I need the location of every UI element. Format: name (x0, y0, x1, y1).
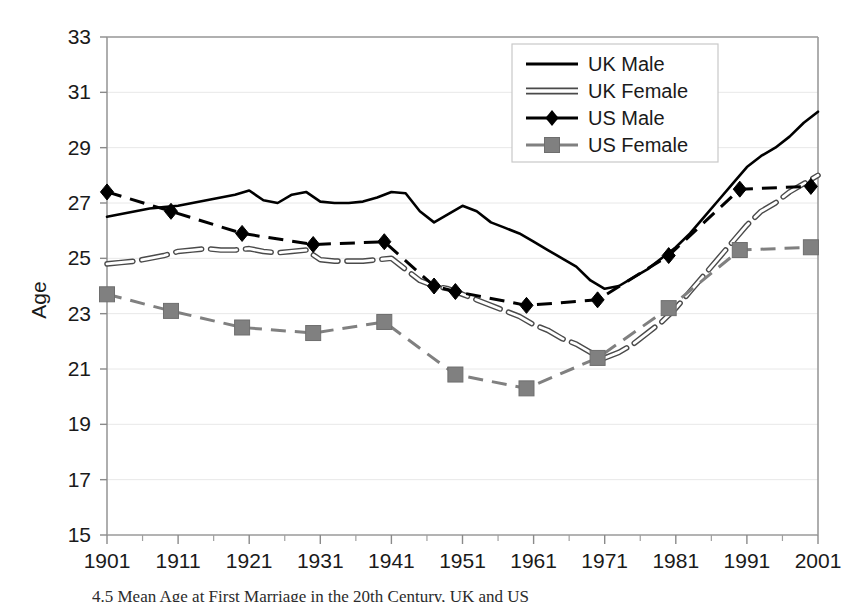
data-point-marker (448, 367, 463, 382)
legend-item-label: UK Female (588, 80, 688, 102)
y-axis-tick-label: 25 (68, 246, 91, 269)
x-axis-tick-label: 1961 (510, 549, 557, 572)
legend-swatch-marker (545, 138, 560, 153)
data-point-marker (590, 350, 605, 365)
y-axis-tick-label: 33 (68, 25, 91, 48)
x-axis-tick-label: 1921 (226, 549, 273, 572)
data-point-marker (377, 314, 392, 329)
legend-item-label: US Female (588, 134, 688, 156)
y-axis-tick-label: 23 (68, 302, 91, 325)
data-point-marker (163, 303, 178, 318)
legend-item-label: US Male (588, 107, 665, 129)
x-axis-tick-label: 1931 (297, 549, 344, 572)
x-axis-tick-label: 1901 (84, 549, 131, 572)
chart-background (0, 0, 855, 602)
x-axis-tick-label: 2001 (795, 549, 842, 572)
x-axis-tick-label: 1911 (156, 549, 201, 572)
legend-item-label: UK Male (588, 53, 665, 75)
y-axis-tick-label: 17 (68, 468, 91, 491)
y-axis-tick-label: 27 (68, 191, 91, 214)
data-point-marker (519, 381, 534, 396)
y-axis-tick-label: 31 (68, 80, 91, 103)
figure-caption: 4.5 Mean Age at First Marriage in the 20… (92, 586, 832, 602)
y-axis-tick-label: 29 (68, 136, 91, 159)
y-axis-tick-label: 19 (68, 412, 91, 435)
data-point-marker (100, 287, 115, 302)
y-axis-title: Age (27, 281, 50, 318)
data-point-marker (306, 326, 321, 341)
data-point-marker (803, 240, 818, 255)
data-point-marker (235, 320, 250, 335)
x-axis-tick-label: 1941 (368, 549, 415, 572)
x-axis-tick-labels: 1901191119211931194119511961197119811991… (84, 549, 842, 572)
x-axis-tick-label: 1991 (724, 549, 771, 572)
x-axis-tick-label: 1971 (581, 549, 628, 572)
mean-age-first-marriage-chart: 15171921232527293133 1901191119211931194… (0, 0, 855, 602)
x-axis-tick-label: 1981 (652, 549, 699, 572)
data-point-marker (732, 243, 747, 258)
data-point-marker (661, 301, 676, 316)
x-axis-tick-label: 1951 (439, 549, 486, 572)
y-axis-tick-label: 21 (68, 357, 91, 380)
chart-legend[interactable]: UK MaleUK FemaleUS MaleUS Female (512, 44, 718, 162)
y-axis-tick-label: 15 (68, 523, 91, 546)
legend-item-us-female[interactable]: US Female (526, 134, 688, 156)
